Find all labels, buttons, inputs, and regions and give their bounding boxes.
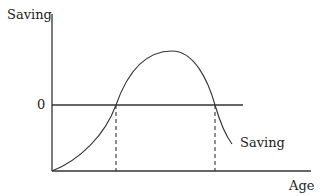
y-axis-label: Saving <box>7 7 52 22</box>
curve-label: Saving <box>240 135 285 150</box>
saving-curve <box>52 51 232 171</box>
zero-tick-label: 0 <box>37 97 45 112</box>
x-axis-label: Age <box>288 178 315 193</box>
saving-age-diagram: Saving 0 Saving Age <box>0 0 320 196</box>
